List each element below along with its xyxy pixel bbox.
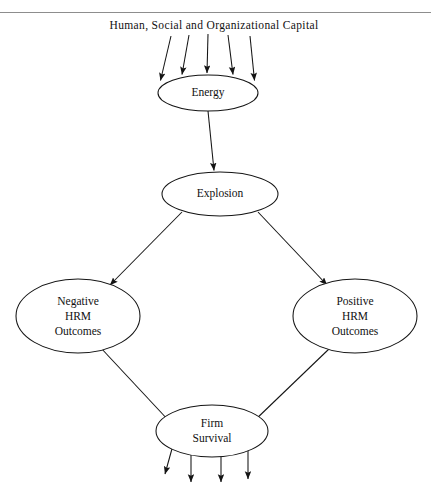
inflow-arrow-group [161, 34, 255, 81]
edge-explosion-to-negative [110, 212, 182, 285]
node-firm-survival[interactable]: Firm Survival [156, 405, 268, 457]
node-explosion[interactable]: Explosion [162, 172, 278, 216]
node-positive-hrm-outcomes[interactable]: Positive HRM Outcomes [293, 279, 417, 353]
edge-explosion-to-positive [258, 212, 327, 285]
node-energy-label: Energy [191, 86, 224, 99]
diagram-caption: Human, Social and Organizational Capital [110, 19, 319, 32]
inflow-arrow-1 [161, 36, 172, 81]
node-energy[interactable]: Energy [158, 75, 258, 111]
figure-diagram: Human, Social and Organizational Capital [0, 0, 431, 491]
node-negative-label-line2: HRM [65, 310, 91, 322]
node-positive-label-line1: Positive [336, 295, 373, 307]
node-negative-hrm-outcomes[interactable]: Negative HRM Outcomes [16, 279, 140, 353]
inflow-arrow-4 [228, 35, 233, 75]
inflow-arrow-5 [250, 36, 255, 81]
diagram-canvas: Human, Social and Organizational Capital [0, 0, 431, 491]
node-firm-label-line1: Firm [201, 417, 223, 429]
edge-negative-to-firm [100, 347, 170, 422]
node-explosion-label: Explosion [197, 187, 244, 200]
node-positive-label-line3: Outcomes [332, 325, 379, 337]
node-negative-label-line3: Outcomes [55, 325, 102, 337]
inflow-arrow-2 [182, 35, 189, 75]
edge-energy-to-explosion [208, 111, 214, 171]
edge-group [100, 111, 330, 422]
inflow-arrow-3 [207, 34, 208, 73]
node-negative-label-line1: Negative [57, 295, 99, 308]
edge-positive-to-firm [253, 348, 330, 422]
node-positive-label-line2: HRM [342, 310, 368, 322]
node-firm-label-line2: Survival [193, 432, 232, 444]
